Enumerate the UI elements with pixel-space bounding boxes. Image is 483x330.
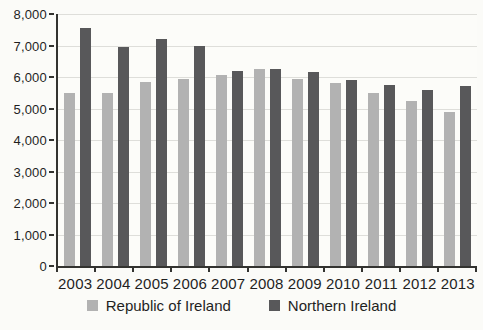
y-tick-label-2000: 2,000 xyxy=(13,196,47,211)
x-tick-4 xyxy=(208,267,210,272)
y-tick-label-4000: 4,000 xyxy=(13,133,47,148)
bar-group-2009 xyxy=(287,14,325,266)
bar-group-2012 xyxy=(401,14,439,266)
bar-2011-republic-of-ireland xyxy=(368,93,379,266)
x-tick-11 xyxy=(475,267,477,272)
x-axis-labels: 2003200420052006200720082009201020112012… xyxy=(56,275,477,292)
x-tick-label-2012: 2012 xyxy=(400,275,438,292)
bar-2004-northern-ireland xyxy=(118,47,129,266)
bar-2012-northern-ireland xyxy=(422,90,433,266)
y-tick-label-8000: 8,000 xyxy=(13,7,47,22)
x-tick-2 xyxy=(132,267,134,272)
bar-group-2007 xyxy=(210,14,248,266)
bar-groups xyxy=(58,14,477,266)
bar-2008-northern-ireland xyxy=(270,69,281,266)
y-tick-6000 xyxy=(49,76,54,78)
x-tick-label-2009: 2009 xyxy=(286,275,324,292)
y-tick-label-5000: 5,000 xyxy=(13,101,47,116)
x-tick-label-2007: 2007 xyxy=(209,275,247,292)
y-tick-label-7000: 7,000 xyxy=(13,38,47,53)
y-tick-label-0: 0 xyxy=(40,259,47,274)
x-tick-1 xyxy=(94,267,96,272)
bar-2013-republic-of-ireland xyxy=(444,112,455,266)
bar-group-2005 xyxy=(134,14,172,266)
y-tick-3000 xyxy=(49,171,54,173)
y-tick-label-1000: 1,000 xyxy=(13,227,47,242)
x-tick-3 xyxy=(170,267,172,272)
bar-group-2013 xyxy=(439,14,477,266)
bar-2009-republic-of-ireland xyxy=(292,79,303,266)
bar-2010-republic-of-ireland xyxy=(330,83,341,266)
legend-item-northern-ireland: Northern Ireland xyxy=(269,297,396,314)
x-tick-label-2008: 2008 xyxy=(247,275,285,292)
bar-group-2004 xyxy=(96,14,134,266)
x-tick-label-2013: 2013 xyxy=(439,275,477,292)
bar-2013-northern-ireland xyxy=(460,86,471,266)
y-tick-0 xyxy=(49,265,54,267)
x-tick-9 xyxy=(399,267,401,272)
x-tick-7 xyxy=(323,267,325,272)
bar-2004-republic-of-ireland xyxy=(102,93,113,266)
plot-area xyxy=(56,14,477,268)
bar-2008-republic-of-ireland xyxy=(254,69,265,266)
y-tick-label-6000: 6,000 xyxy=(13,70,47,85)
x-tick-label-2004: 2004 xyxy=(94,275,132,292)
y-tick-8000 xyxy=(49,13,54,15)
y-tick-7000 xyxy=(49,45,54,47)
bar-2006-northern-ireland xyxy=(194,46,205,267)
bar-group-2011 xyxy=(363,14,401,266)
x-tick-label-2003: 2003 xyxy=(56,275,94,292)
bar-group-2006 xyxy=(172,14,210,266)
x-tick-label-2006: 2006 xyxy=(171,275,209,292)
y-tick-5000 xyxy=(49,108,54,110)
bar-2011-northern-ireland xyxy=(384,85,395,266)
x-tick-6 xyxy=(285,267,287,272)
bar-group-2008 xyxy=(248,14,286,266)
y-tick-4000 xyxy=(49,139,54,141)
legend-item-republic-of-ireland: Republic of Ireland xyxy=(87,297,231,314)
bar-2005-northern-ireland xyxy=(156,39,167,266)
bar-2005-republic-of-ireland xyxy=(140,82,151,266)
x-tick-8 xyxy=(361,267,363,272)
bar-2006-republic-of-ireland xyxy=(178,79,189,266)
x-tick-0 xyxy=(56,267,58,272)
y-tick-1000 xyxy=(49,234,54,236)
bar-2012-republic-of-ireland xyxy=(406,101,417,266)
legend-label-republic-of-ireland: Republic of Ireland xyxy=(106,297,231,314)
bar-group-2010 xyxy=(325,14,363,266)
legend-swatch-republic-of-ireland-icon xyxy=(87,300,98,311)
x-tick-10 xyxy=(437,267,439,272)
x-tick-label-2011: 2011 xyxy=(362,275,400,292)
x-tick-5 xyxy=(247,267,249,272)
y-tick-2000 xyxy=(49,202,54,204)
bar-2010-northern-ireland xyxy=(346,80,357,266)
bar-2009-northern-ireland xyxy=(308,72,319,266)
legend-swatch-northern-ireland-icon xyxy=(269,300,280,311)
bar-2003-northern-ireland xyxy=(80,28,91,266)
x-tick-label-2005: 2005 xyxy=(133,275,171,292)
bar-2007-republic-of-ireland xyxy=(216,75,227,266)
grouped-bar-chart: 01,0002,0003,0004,0005,0006,0007,0008,00… xyxy=(0,0,483,330)
bar-2007-northern-ireland xyxy=(232,71,243,266)
bar-group-2003 xyxy=(58,14,96,266)
x-tick-label-2010: 2010 xyxy=(324,275,362,292)
y-tick-label-3000: 3,000 xyxy=(13,164,47,179)
legend: Republic of Ireland Northern Ireland xyxy=(0,297,483,314)
bar-2003-republic-of-ireland xyxy=(64,93,75,266)
legend-label-northern-ireland: Northern Ireland xyxy=(288,297,396,314)
y-axis-labels: 01,0002,0003,0004,0005,0006,0007,0008,00… xyxy=(0,14,47,268)
